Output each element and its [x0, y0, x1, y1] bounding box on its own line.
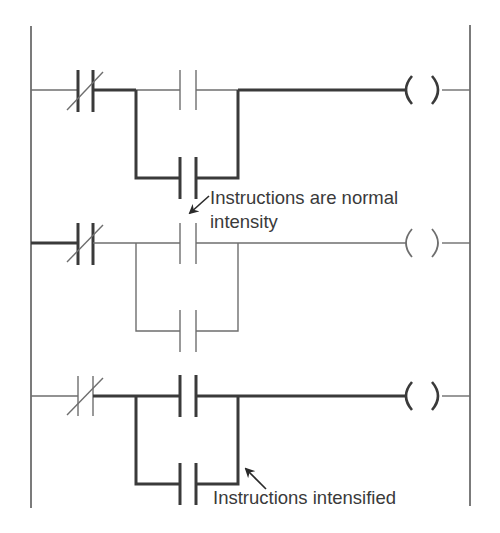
- coil-icon: [406, 76, 438, 104]
- no-contact-icon: [180, 157, 196, 199]
- arrow-icon: [190, 196, 209, 213]
- no-contact-icon: [180, 223, 196, 264]
- ladder-diagram: [0, 0, 500, 533]
- no-contact-icon: [180, 463, 196, 505]
- annotation-normal-line2: intensity: [210, 210, 278, 234]
- no-contact-icon: [180, 310, 196, 352]
- coil-icon: [406, 229, 438, 257]
- no-contact-icon: [180, 375, 196, 417]
- no-contact-icon: [180, 70, 196, 110]
- rung-1: [31, 70, 470, 199]
- rung-2: [31, 223, 470, 352]
- annotation-intensified: Instructions intensified: [213, 486, 396, 510]
- annotation-normal-line1: Instructions are normal: [210, 186, 398, 210]
- coil-icon: [406, 382, 438, 410]
